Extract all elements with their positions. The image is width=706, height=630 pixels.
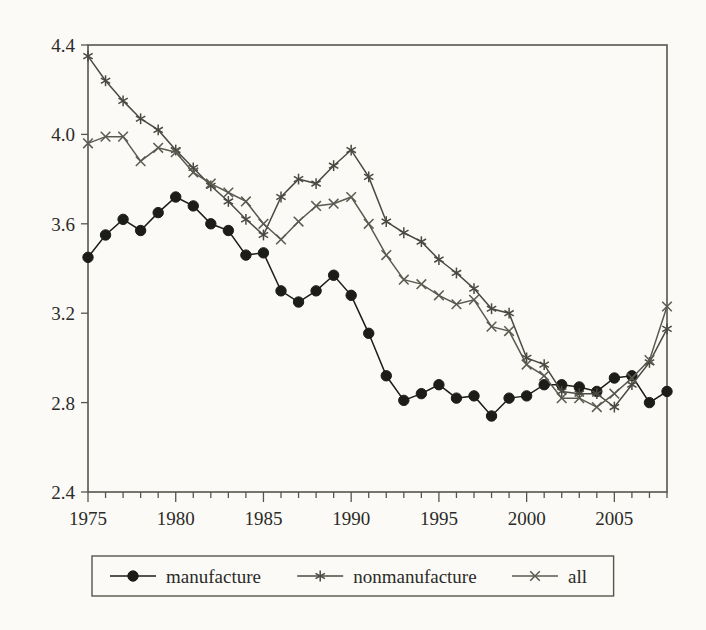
marker-filled-circle [504, 393, 514, 403]
y-tick-label: 4.4 [51, 35, 75, 56]
marker-filled-circle [135, 225, 145, 235]
marker-x-cross [504, 326, 514, 336]
series-all [83, 132, 672, 412]
marker-x-cross [224, 188, 234, 198]
marker-x-cross [610, 389, 620, 399]
y-tick-label: 2.4 [51, 482, 75, 503]
marker-filled-circle [609, 373, 619, 383]
marker-filled-circle [100, 230, 110, 240]
marker-filled-circle [206, 219, 216, 229]
marker-filled-circle [364, 328, 374, 338]
marker-x-cross [294, 217, 304, 227]
marker-x-cross [136, 156, 146, 166]
marker-x-cross [364, 219, 374, 229]
marker-filled-circle [171, 192, 181, 202]
marker-filled-circle [153, 207, 163, 217]
marker-x-cross [276, 235, 286, 245]
marker-filled-circle [381, 371, 391, 381]
plot-box [88, 45, 667, 492]
marker-filled-circle [276, 286, 286, 296]
marker-filled-circle [188, 201, 198, 211]
y-axis-ticks [81, 45, 88, 492]
x-tick-label: 2005 [595, 508, 633, 529]
y-tick-label: 3.2 [51, 303, 75, 324]
chart-figure: 2.42.83.23.64.04.4 197519801985199019952… [0, 0, 706, 630]
marker-filled-circle [662, 386, 672, 396]
x-tick-label: 1975 [69, 508, 107, 529]
marker-filled-circle [118, 214, 128, 224]
marker-asterisk [382, 216, 391, 227]
chart-canvas: 2.42.83.23.64.04.4 197519801985199019952… [0, 0, 706, 630]
marker-x-cross [592, 402, 602, 412]
y-axis-tick-labels: 2.42.83.23.64.04.4 [51, 35, 75, 503]
x-tick-label: 1985 [244, 508, 282, 529]
x-tick-label: 1990 [332, 508, 370, 529]
marker-filled-circle [328, 270, 338, 280]
marker-filled-circle [311, 286, 321, 296]
marker-filled-circle [644, 397, 654, 407]
legend-item-nonmanufacture[interactable]: nonmanufacture [297, 566, 476, 587]
marker-filled-circle [258, 248, 268, 258]
marker-x-cross [399, 275, 409, 285]
marker-filled-circle [83, 252, 93, 262]
marker-x-cross [452, 299, 462, 309]
legend-label: all [568, 566, 587, 587]
marker-x-cross [487, 322, 497, 332]
marker-filled-circle [293, 297, 303, 307]
marker-filled-circle [486, 411, 496, 421]
x-tick-label: 2000 [508, 508, 546, 529]
marker-asterisk [399, 227, 408, 238]
marker-x-cross [346, 192, 356, 202]
marker-x-cross [381, 250, 391, 260]
marker-asterisk [662, 323, 671, 334]
marker-x-cross [153, 143, 163, 153]
y-tick-label: 3.6 [51, 214, 75, 235]
marker-filled-circle [346, 290, 356, 300]
marker-x-cross [417, 279, 427, 289]
legend-label: nonmanufacture [353, 566, 476, 587]
legend-label: manufacture [166, 566, 261, 587]
y-tick-label: 2.8 [51, 393, 75, 414]
plot-frame [88, 45, 667, 492]
marker-filled-circle [223, 225, 233, 235]
x-axis-ticks [88, 492, 667, 502]
marker-x-cross [259, 219, 269, 229]
chart-legend: manufacturenonmanufactureall [92, 556, 614, 596]
series-manufacture [83, 192, 672, 421]
data-series-layer [83, 51, 672, 421]
marker-filled-circle [128, 571, 138, 581]
marker-x-cross [469, 295, 479, 305]
legend-item-manufacture[interactable]: manufacture [110, 566, 261, 587]
marker-asterisk [504, 308, 513, 319]
y-tick-label: 4.0 [51, 124, 75, 145]
marker-filled-circle [521, 391, 531, 401]
marker-filled-circle [469, 391, 479, 401]
marker-filled-circle [416, 388, 426, 398]
marker-filled-circle [451, 393, 461, 403]
x-axis-tick-labels: 1975198019851990199520002005 [69, 508, 633, 529]
marker-filled-circle [434, 380, 444, 390]
marker-x-cross [434, 291, 444, 301]
x-tick-label: 1995 [420, 508, 458, 529]
marker-filled-circle [399, 395, 409, 405]
marker-x-cross [241, 197, 251, 207]
x-tick-label: 1980 [157, 508, 195, 529]
marker-filled-circle [241, 250, 251, 260]
series-nonmanufacture [83, 51, 671, 413]
series-line [88, 137, 667, 407]
legend-item-all[interactable]: all [512, 566, 587, 587]
